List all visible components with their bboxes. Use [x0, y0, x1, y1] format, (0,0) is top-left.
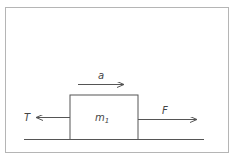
tension-label: T: [24, 112, 31, 123]
applied-force-label: F: [162, 105, 168, 116]
free-body-diagram: m1 a T F: [0, 0, 236, 159]
acceleration-label: a: [98, 70, 104, 81]
